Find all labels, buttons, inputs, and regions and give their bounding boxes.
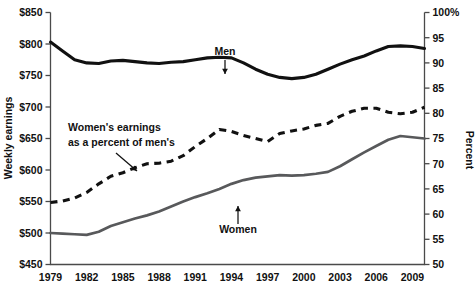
chart-container: $450$500$550$600$650$700$750$800$8505055… <box>0 0 476 294</box>
x-axis-tick-label: 1979 <box>39 271 63 283</box>
y-axis-left-title: Weekly earnings <box>2 97 14 180</box>
y-axis-right-tick-label: 55 <box>433 233 445 245</box>
y-axis-right-title: Percent <box>464 131 476 170</box>
x-axis-tick-label: 1994 <box>220 271 244 283</box>
y-axis-left-tick-label: $600 <box>19 164 43 176</box>
annotation-women-label: Women <box>219 223 257 235</box>
line-chart-svg: $450$500$550$600$650$700$750$800$8505055… <box>0 0 476 294</box>
y-axis-right-tick-label: 80 <box>433 107 445 119</box>
x-axis-tick-label: 2009 <box>401 271 425 283</box>
y-axis-left-tick-label: $500 <box>19 227 43 239</box>
x-axis-tick-label: 1982 <box>75 271 99 283</box>
x-axis-tick-label: 2000 <box>292 271 316 283</box>
annotations-layer: MenWomenWomen's earningsas a percent of … <box>68 45 257 235</box>
y-axis-left-tick-label: $700 <box>19 101 43 113</box>
y-axis-left-tick-label: $850 <box>19 6 43 18</box>
annotation-percent-label-line1: Women's earnings <box>68 121 161 133</box>
y-axis-left-tick-label: $550 <box>19 195 43 207</box>
x-axis-tick-label: 2006 <box>365 271 389 283</box>
y-axis-left-tick-label: $750 <box>19 69 43 81</box>
y-axis-right-tick-label: 50 <box>433 258 445 270</box>
y-axis-right-tick-label: 100% <box>433 6 461 18</box>
y-axis-right-tick-label: 65 <box>433 183 445 195</box>
x-axis-tick-label: 1997 <box>256 271 280 283</box>
annotation-men-arrow-head <box>222 69 228 74</box>
x-axis-tick-label: 1985 <box>111 271 135 283</box>
annotation-women-arrow-head <box>235 206 241 211</box>
y-axis-left-tick-label: $450 <box>19 258 43 270</box>
y-axis-right-tick-label: 95 <box>433 32 445 44</box>
series-line-men <box>51 42 425 79</box>
y-axis-right-tick-label: 70 <box>433 158 445 170</box>
x-axis-tick-label: 1988 <box>147 271 171 283</box>
x-axis-tick-label: 1991 <box>184 271 208 283</box>
y-axis-left-tick-label: $650 <box>19 132 43 144</box>
y-axis-right-tick-label: 60 <box>433 208 445 220</box>
annotation-men-label: Men <box>215 45 236 57</box>
x-axis-tick-label: 2003 <box>328 271 352 283</box>
y-axis-right-tick-label: 75 <box>433 132 445 144</box>
y-axis-right-tick-label: 85 <box>433 82 445 94</box>
y-axis-right-tick-label: 90 <box>433 57 445 69</box>
annotation-percent-label-line2: as a percent of men's <box>68 136 175 148</box>
y-axis-left-tick-label: $800 <box>19 38 43 50</box>
